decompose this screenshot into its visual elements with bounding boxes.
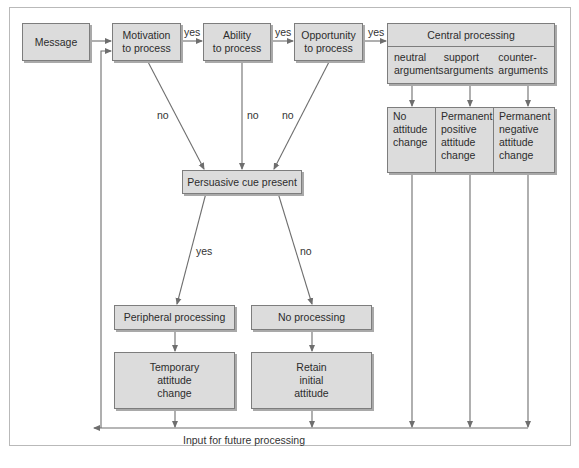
node-message: Message	[22, 23, 90, 61]
node-ability: Ability to process	[203, 23, 271, 61]
node-motivation-label: Motivation to process	[122, 29, 170, 55]
central-col-support: support arguments	[444, 51, 499, 77]
edge-label-opportunity-yes: yes	[368, 26, 384, 38]
node-peripheral-processing-label: Peripheral processing	[124, 311, 226, 324]
outcome-no-change: No attitude change	[388, 108, 435, 172]
node-opportunity-label: Opportunity to process	[301, 29, 355, 55]
edge-label-cue-no: no	[300, 245, 312, 257]
node-peripheral-processing: Peripheral processing	[114, 305, 235, 330]
outcome-negative-change: Permanent negative attitude change	[493, 108, 554, 172]
node-central-processing: Central processing neutral arguments sup…	[387, 23, 555, 84]
edge-label-motivation-yes: yes	[184, 26, 200, 38]
node-motivation: Motivation to process	[112, 23, 181, 61]
central-col-neutral: neutral arguments	[394, 51, 444, 77]
edge-label-cue-yes: yes	[196, 245, 212, 257]
node-opportunity: Opportunity to process	[294, 23, 363, 61]
edge-label-ability-no: no	[247, 109, 259, 121]
central-processing-title: Central processing	[388, 24, 554, 47]
edge-label-ability-yes: yes	[275, 26, 291, 38]
edge-label-motivation-no: no	[157, 109, 169, 121]
node-central-outcomes: No attitude change Permanent positive at…	[387, 107, 555, 173]
node-retain-attitude: Retain initial attitude	[251, 352, 372, 409]
node-retain-attitude-label: Retain initial attitude	[294, 361, 328, 400]
node-no-processing: No processing	[251, 305, 372, 330]
node-message-label: Message	[35, 36, 78, 49]
node-temporary-change: Temporary attitude change	[114, 352, 235, 409]
node-persuasive-cue: Persuasive cue present	[182, 170, 302, 194]
node-no-processing-label: No processing	[278, 311, 345, 324]
edge-label-opportunity-no: no	[282, 109, 294, 121]
central-col-counter: counter- arguments	[498, 51, 551, 77]
node-persuasive-cue-label: Persuasive cue present	[187, 176, 297, 189]
node-temporary-change-label: Temporary attitude change	[150, 361, 200, 400]
feedback-label: Input for future processing	[183, 434, 305, 446]
node-ability-label: Ability to process	[213, 29, 261, 55]
outcome-positive-change: Permanent positive attitude change	[435, 108, 493, 172]
